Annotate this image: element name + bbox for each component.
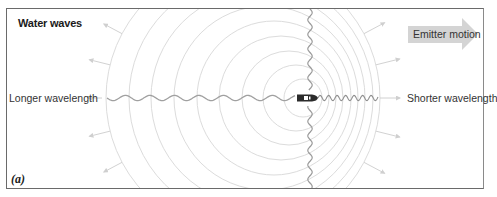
emitter-motion-label: Emitter motion (413, 28, 481, 40)
shorter-wavelength-label: Shorter wavelength (407, 92, 497, 104)
shorter-wavelength-wave (318, 95, 378, 100)
longer-wavelength-label: Longer wavelength (9, 92, 98, 104)
boat-icon (297, 95, 318, 102)
figure-title: Water waves (18, 17, 82, 29)
panel-label: (a) (11, 172, 25, 187)
longer-wavelength-wave (107, 95, 295, 100)
radial-arrows (89, 0, 399, 197)
